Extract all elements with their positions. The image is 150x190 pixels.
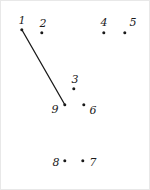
dot-marker-5[interactable] [123,31,126,34]
dot-label-3: 3 [72,74,79,85]
dot-marker-3[interactable] [72,87,75,90]
dot-marker-8[interactable] [63,159,66,162]
connect-the-dots-canvas: 123456789 [0,0,150,190]
dot-marker-9[interactable] [63,103,66,106]
dot-marker-2[interactable] [40,31,43,34]
dot-label-7: 7 [90,157,97,168]
dot-label-6: 6 [90,105,97,116]
dot-layer: 123456789 [1,1,150,190]
dot-label-4: 4 [101,17,108,28]
dot-label-8: 8 [53,157,60,168]
dot-marker-4[interactable] [102,31,105,34]
dot-marker-1[interactable] [20,28,23,31]
dot-label-2: 2 [40,18,47,29]
dot-marker-6[interactable] [82,103,85,106]
dot-label-9: 9 [52,104,59,115]
dot-label-5: 5 [130,17,137,28]
dot-label-1: 1 [19,15,26,26]
dot-marker-7[interactable] [81,159,84,162]
